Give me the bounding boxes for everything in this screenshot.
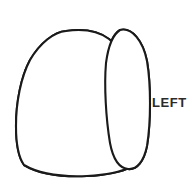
accessory-lobe-outline-overstroke (105, 30, 150, 169)
side-label-left: LEFT (152, 96, 187, 109)
lung-diagram-figure: LEFT (0, 0, 194, 195)
